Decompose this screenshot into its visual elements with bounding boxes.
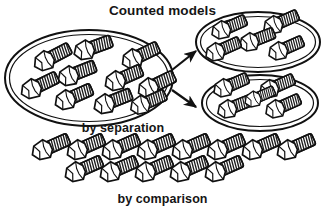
counted-models-diagram [0,0,325,215]
page-title: Counted models [0,3,325,18]
arrow-to-upper-set [172,51,196,70]
group-source-set [5,30,178,126]
separation-caption: by separation [0,121,246,135]
group-comparison-rows [29,130,318,186]
arrow-to-lower-set [172,90,196,107]
figure-canvas: Counted models by separation by comparis… [0,0,325,215]
comparison-caption: by comparison [0,192,325,206]
